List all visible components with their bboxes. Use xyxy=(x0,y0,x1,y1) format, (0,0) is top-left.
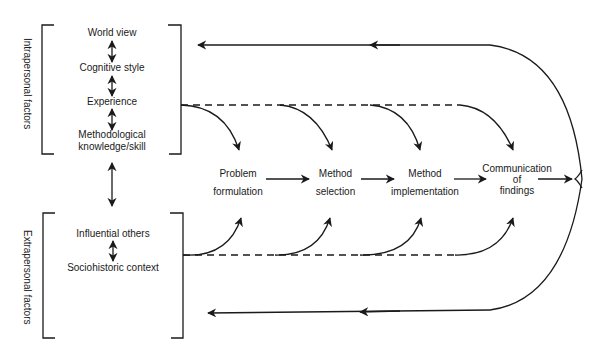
intrapersonal-factors-label: Intrapersonal factors xyxy=(22,38,33,129)
sociohistoric-context-label: Sociohistoric context xyxy=(58,262,168,274)
stage-line: Method xyxy=(390,168,460,180)
extrapersonal-factors-label: Extrapersonal factors xyxy=(22,230,33,325)
world-view-label: World view xyxy=(62,27,162,39)
stage-line: formulation xyxy=(208,186,268,198)
stage-problem-formulation: Problem formulation xyxy=(208,168,268,198)
stage-line: implementation xyxy=(390,186,460,198)
stage-communication-of-findings: Communication of findings xyxy=(482,163,552,196)
stage-method-implementation: Method implementation xyxy=(390,168,460,198)
experience-label: Experience xyxy=(62,96,162,108)
stage-line: findings xyxy=(482,185,552,196)
feedback-bottom xyxy=(208,310,490,313)
extrapersonal-bracket-left xyxy=(43,213,55,338)
knowledge-skill-label: knowledge/skill xyxy=(62,141,162,153)
influential-others-label: Influential others xyxy=(58,228,168,240)
stage-line: Communication xyxy=(482,163,552,174)
cognitive-style-label: Cognitive style xyxy=(62,62,162,74)
stage-line: Method xyxy=(308,168,363,180)
stage-line: Problem xyxy=(208,168,268,180)
extrapersonal-bracket-right xyxy=(170,213,183,338)
intrapersonal-bracket-left xyxy=(42,25,54,154)
stage-method-selection: Method selection xyxy=(308,168,363,198)
stage-line: selection xyxy=(308,186,363,198)
stage-line: of xyxy=(482,174,552,185)
intrapersonal-bracket-right xyxy=(168,25,181,154)
methodological-label: Methodological xyxy=(62,129,162,141)
